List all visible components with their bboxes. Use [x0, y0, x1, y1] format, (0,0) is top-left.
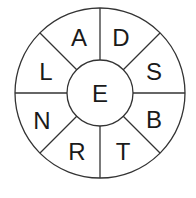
segment-letter-left-upper[interactable]: L	[39, 58, 52, 85]
segment-letter-bottom-right[interactable]: T	[116, 138, 131, 165]
segment-letter-top-right[interactable]: D	[112, 24, 129, 51]
word-wheel: E D S B T R N L A	[0, 0, 196, 198]
segment-letter-right-lower[interactable]: B	[146, 106, 162, 133]
center-letter[interactable]: E	[92, 80, 108, 107]
segment-letter-top-left[interactable]: A	[71, 24, 87, 51]
segment-letter-bottom-left[interactable]: R	[68, 138, 85, 165]
segment-letter-right-upper[interactable]: S	[146, 58, 162, 85]
segment-letter-left-lower[interactable]: N	[33, 107, 50, 134]
